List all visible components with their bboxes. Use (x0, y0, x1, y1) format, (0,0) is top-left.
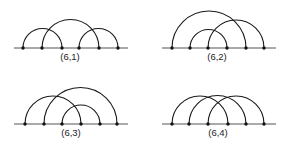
point-marker (77, 46, 80, 49)
point-marker (262, 46, 265, 49)
point-marker (23, 122, 26, 125)
point-marker (170, 46, 173, 49)
point-marker (21, 46, 24, 49)
arc (189, 96, 246, 125)
point-marker (262, 122, 265, 125)
arc (42, 20, 99, 49)
arc (172, 96, 228, 124)
arc-group (172, 96, 264, 125)
point-marker (60, 122, 63, 125)
arc (208, 20, 264, 48)
arc-group (23, 20, 118, 49)
arc-diagram-figure: (6,1) (6,2) (6,3) (6,4) (0, 0, 288, 144)
panel-label: (6,3) (61, 127, 81, 138)
point-marker (206, 46, 209, 49)
point-marker (40, 46, 43, 49)
panel-label: (6,2) (207, 51, 227, 62)
point-marker (42, 122, 45, 125)
point-marker (244, 122, 247, 125)
panel-label: (6,4) (208, 127, 228, 138)
panel-6-3: (6,3) (14, 88, 128, 139)
arc-group (25, 88, 117, 125)
point-marker (97, 46, 100, 49)
point-marker (226, 122, 229, 125)
point-marker (116, 46, 119, 49)
point-marker (225, 46, 228, 49)
arc-group (172, 11, 264, 48)
point-marker (187, 122, 190, 125)
point-marker (79, 122, 82, 125)
panel-6-4: (6,4) (162, 96, 276, 139)
panel-label: (6,1) (60, 51, 80, 62)
panel-6-1: (6,1) (14, 20, 128, 63)
point-marker (115, 122, 118, 125)
point-marker (60, 46, 63, 49)
panel-6-2: (6,2) (162, 11, 276, 62)
point-marker (244, 46, 247, 49)
point-marker (98, 122, 101, 125)
point-marker (206, 122, 209, 125)
arc (208, 96, 264, 124)
point-marker (188, 46, 191, 49)
point-marker (170, 122, 173, 125)
